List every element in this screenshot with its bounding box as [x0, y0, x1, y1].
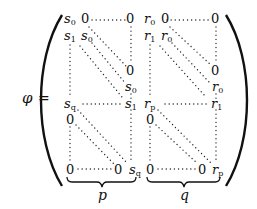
entry-zero: 0 [211, 12, 219, 25]
underbrace-p [67, 177, 136, 187]
entry-zero: 0 [146, 163, 154, 176]
brace-label-q: q [180, 189, 189, 202]
entry-zero: 0 [146, 113, 154, 126]
entry-r1-right: r1 [211, 97, 222, 114]
entry-r1: r1 [144, 29, 155, 46]
entry-zero: 0 [114, 163, 122, 176]
underbrace-q [147, 177, 220, 187]
entry-s0-top: s0 [64, 12, 76, 29]
entry-r0-mid: r0 [212, 80, 223, 97]
right-parenthesis [226, 15, 247, 186]
equals-sign: = [38, 92, 50, 105]
brace-label-p: p [98, 189, 107, 202]
entry-zero: 0 [211, 64, 219, 77]
entry-s1: s1 [64, 29, 76, 46]
entry-sq-bottom: sq [129, 163, 141, 180]
entry-zero: 0 [126, 12, 134, 25]
entry-s1-right: s1 [125, 97, 137, 114]
entry-rp-bottom: rp [212, 163, 223, 180]
entry-zero: 0 [198, 163, 206, 176]
entry-r0-top: r0 [144, 12, 155, 29]
entry-r0-second: r0 [161, 29, 172, 46]
entry-zero: 0 [126, 64, 134, 77]
entry-s0-mid: s0 [125, 80, 137, 97]
entry-zero: 0 [66, 163, 74, 176]
entry-zero: 0 [66, 113, 74, 126]
phi-symbol: φ [22, 92, 33, 105]
entry-zero: 0 [81, 12, 89, 25]
entry-zero: 0 [161, 12, 169, 25]
entry-s0-second: s0 [81, 29, 93, 46]
